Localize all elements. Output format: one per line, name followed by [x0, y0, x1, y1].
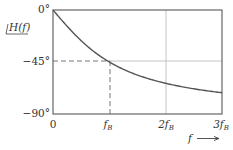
x-tick-3fb: 3fB: [213, 118, 229, 132]
y-tick-minus45: −45°: [23, 55, 50, 67]
y-tick-0: 0°: [38, 3, 50, 15]
y-axis-label: H(f): [6, 21, 30, 34]
phase-plot: 0° −45° −90° H(f) 0 fB 2fB 3fB f: [0, 0, 233, 150]
y-tick-minus90: −90°: [23, 107, 50, 119]
x-axis-label: f: [187, 132, 194, 144]
x-tick-2fb: 2fB: [157, 118, 174, 132]
phase-curve: [53, 10, 222, 93]
plot-frame: [53, 10, 222, 114]
x-tick-0: 0: [50, 118, 57, 130]
x-tick-fb: fB: [102, 118, 112, 132]
y-axis-label-text: H(f): [8, 21, 30, 33]
